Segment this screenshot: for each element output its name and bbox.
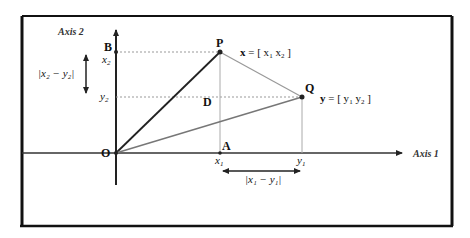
segment-pq [220,52,302,97]
vertical-distance-label: |x₂ − y₂| [38,67,74,79]
point-o [114,151,118,155]
point-b [114,50,118,54]
label-d: D [203,95,212,109]
tick-y2: y2 [99,90,109,104]
vector-y-label: y = [ y1 y2 ] [320,92,371,106]
point-q [300,95,305,100]
diagram-canvas: O P Q A B D x = [ x1 x2 ] y = [ y1 y2 ] … [0,0,470,238]
label-q: Q [305,81,314,95]
diagram-frame [20,16,453,226]
vector-x-label: x = [ x1 x2 ] [240,46,291,60]
label-p: P [216,36,223,50]
label-a: A [222,139,231,153]
tick-x1: x1 [214,154,223,168]
horizontal-distance-label: |x₁ − y₁| [245,173,281,185]
tick-y1: y1 [296,154,305,168]
label-b: B [104,40,112,54]
axis-1-label: Axis 1 [412,148,439,159]
axis-2-label: Axis 2 [57,26,84,37]
label-o: O [101,146,110,160]
tick-x2: x2 [101,53,111,67]
point-p [218,50,223,55]
